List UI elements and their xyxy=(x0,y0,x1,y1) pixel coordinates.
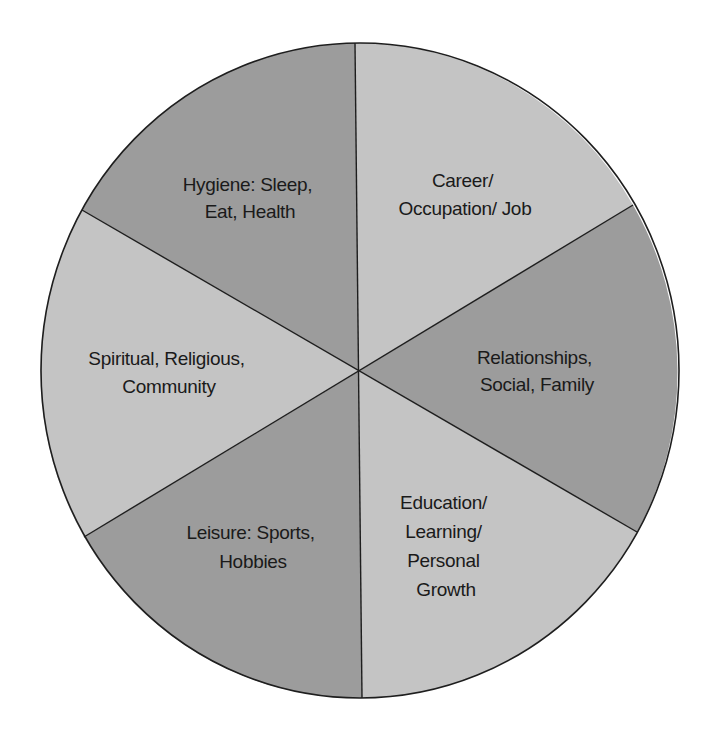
life-wheel-diagram: Career/ Occupation/ Job Relationships, S… xyxy=(0,0,714,731)
